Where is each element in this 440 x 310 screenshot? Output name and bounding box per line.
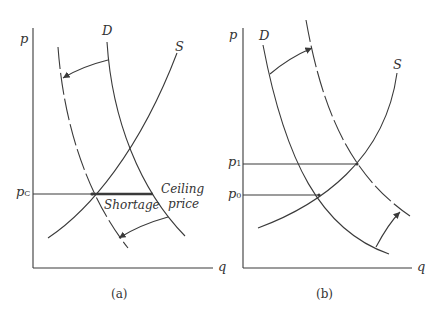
a-shifted-demand-curve (58, 47, 128, 248)
b-p1-label: p1 (228, 155, 241, 168)
a-price-ceiling-label: pC (16, 185, 30, 198)
b-supply-curve (258, 73, 397, 228)
b-p0-label: p0 (228, 187, 241, 200)
a-ceiling-label-line1: Ceiling (161, 183, 204, 195)
a-x-axis-label: q (218, 260, 226, 273)
a-demand-label: D (102, 24, 112, 37)
a-supply-label: S (175, 40, 184, 53)
b-shifted-demand-curve (306, 20, 410, 216)
b-shift-arrow-top (270, 48, 312, 74)
a-shift-arrow-top (63, 60, 108, 78)
b-supply-label: S (393, 58, 402, 71)
a-shift-arrow-bottom (119, 217, 168, 238)
a-caption: (a) (111, 288, 128, 300)
a-shortage-label: Shortage (104, 199, 160, 211)
a-y-axis-label: p (20, 32, 28, 45)
b-x-axis-label: q (417, 260, 425, 273)
b-demand-label: D (259, 29, 269, 42)
b-demand-curve (263, 45, 389, 254)
b-shift-arrow-bottom (376, 212, 400, 247)
a-ceiling-label-line2: price (168, 198, 199, 210)
b-caption: (b) (316, 288, 333, 300)
b-y-axis-label: p (229, 28, 237, 41)
